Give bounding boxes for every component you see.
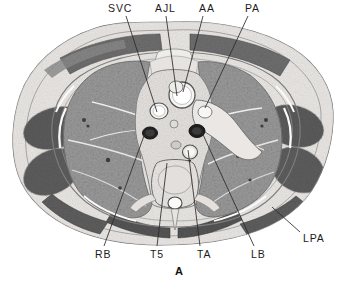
label-t5: T5 <box>150 249 164 260</box>
label-pa: PA <box>245 3 260 14</box>
anatomical-cross-section-image <box>0 0 348 284</box>
label-lpa: LPA <box>303 233 325 244</box>
label-ta: TA <box>197 249 211 260</box>
label-svc: SVC <box>108 3 132 14</box>
label-rb: RB <box>95 249 111 260</box>
anatomy-figure: SVCAJLAAPARBT5TALBLPA A <box>0 0 348 284</box>
label-aa: AA <box>199 3 215 14</box>
figure-panel-letter: A <box>175 265 183 277</box>
label-ajl: AJL <box>155 3 176 14</box>
spinal-canal <box>168 197 182 209</box>
label-lb: LB <box>251 249 266 260</box>
esophagus <box>171 141 181 149</box>
